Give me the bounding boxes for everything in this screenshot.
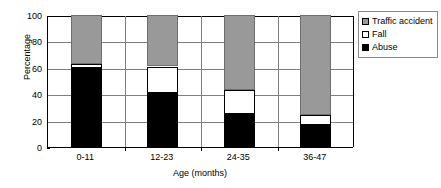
- bar-segment-abuse[interactable]: [300, 125, 331, 147]
- x-axis-ticks: 0-1112-2324-3536-47: [47, 152, 353, 166]
- y-tick-label: 40: [12, 91, 42, 100]
- bar-segment-traffic-accident[interactable]: [300, 15, 331, 115]
- bar-segment-abuse[interactable]: [71, 68, 102, 147]
- bar-segment-fall[interactable]: [71, 64, 102, 68]
- bar-segment-fall[interactable]: [300, 115, 331, 124]
- chart-legend: Traffic accidentFallAbuse: [358, 11, 438, 58]
- x-tick-mark: [278, 147, 279, 151]
- y-tick-mark: [47, 148, 50, 149]
- bar-segment-fall[interactable]: [147, 67, 178, 93]
- bar-segment-traffic-accident[interactable]: [224, 15, 255, 90]
- legend-label: Abuse: [372, 42, 398, 52]
- y-tick-label: 80: [12, 38, 42, 47]
- bar-segment-abuse[interactable]: [147, 93, 178, 147]
- fall-swatch-icon: [362, 31, 369, 38]
- x-tick-label: 24-35: [227, 152, 250, 162]
- category-divider: [278, 16, 279, 147]
- legend-label: Fall: [372, 29, 387, 39]
- y-tick-label: 20: [12, 117, 42, 126]
- abuse-swatch-icon: [362, 44, 369, 51]
- y-axis-ticks: 020406080100: [12, 12, 42, 148]
- stacked-bar-chart: Percentage 020406080100 0-1112-2324-3536…: [0, 0, 441, 188]
- y-tick-label: 60: [12, 64, 42, 73]
- bar-segment-abuse[interactable]: [224, 114, 255, 147]
- category-divider: [353, 16, 354, 147]
- plot-area: [47, 16, 353, 148]
- plot-inner: [48, 16, 353, 147]
- bar-group[interactable]: [300, 15, 331, 147]
- y-tick-label: 0: [12, 144, 42, 153]
- x-tick-label: 0-11: [77, 152, 94, 162]
- bar-segment-fall[interactable]: [224, 90, 255, 114]
- legend-item[interactable]: Abuse: [362, 41, 434, 53]
- bar-group[interactable]: [147, 15, 178, 147]
- x-tick-label: 12-23: [150, 152, 173, 162]
- legend-item[interactable]: Fall: [362, 28, 434, 40]
- traffic-accident-swatch-icon: [362, 18, 369, 25]
- x-axis-title: Age (months): [47, 168, 353, 178]
- x-tick-mark: [201, 147, 202, 151]
- category-divider: [201, 16, 202, 147]
- bar-segment-traffic-accident[interactable]: [71, 15, 102, 64]
- legend-item[interactable]: Traffic accident: [362, 15, 434, 27]
- y-tick-label: 100: [12, 12, 42, 21]
- x-tick-label: 36-47: [303, 152, 326, 162]
- x-tick-mark: [125, 147, 126, 151]
- bar-segment-traffic-accident[interactable]: [147, 15, 178, 66]
- bar-group[interactable]: [224, 15, 255, 147]
- bar-group[interactable]: [71, 15, 102, 147]
- category-divider: [125, 16, 126, 147]
- legend-label: Traffic accident: [372, 16, 433, 26]
